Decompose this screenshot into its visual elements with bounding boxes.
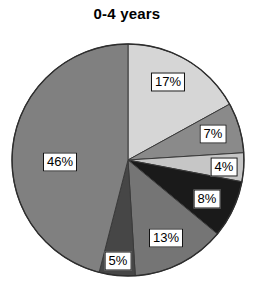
pie-slice-label: 13% <box>149 229 183 248</box>
pie-chart-plot-area: 17%7%4%8%13%5%46% <box>0 0 254 285</box>
pie-slice-label: 46% <box>43 153 77 172</box>
pie-slice-label: 4% <box>211 158 238 177</box>
pie-slice-label: 7% <box>200 125 227 144</box>
pie-slice-label: 5% <box>105 252 132 271</box>
pie-slice-label: 17% <box>151 73 185 92</box>
pie-chart-figure: 0-4 years 17%7%4%8%13%5%46% <box>0 0 254 285</box>
pie-slice-label: 8% <box>194 190 221 209</box>
